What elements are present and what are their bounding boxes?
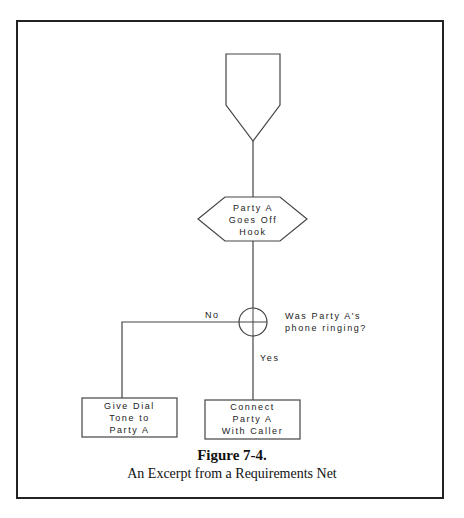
yes-edge-label: Yes bbox=[260, 352, 300, 364]
decision-label: Was Party A's phone ringing? bbox=[285, 310, 395, 334]
yes-action-label: Connect Party A With Caller bbox=[205, 401, 300, 437]
no-action-label: Give Dial Tone to Party A bbox=[82, 400, 177, 436]
figure-subtitle: An Excerpt from a Requirements Net bbox=[0, 466, 464, 482]
figure-title: Figure 7-4. bbox=[0, 447, 464, 464]
entry-node bbox=[226, 54, 280, 141]
no-edge-label: No bbox=[205, 309, 235, 321]
diagram-canvas bbox=[0, 0, 464, 518]
event-label: Party A Goes Off Hook bbox=[198, 202, 308, 238]
